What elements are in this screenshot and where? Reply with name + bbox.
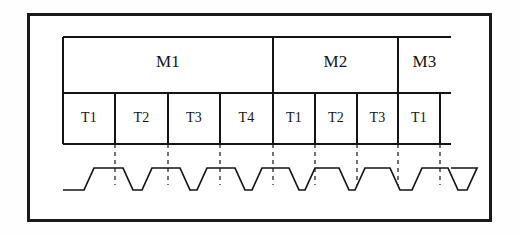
t-state-label-m2-t3: T3 [357, 111, 398, 125]
t-state-label-m3-t1: T1 [398, 111, 440, 125]
t-state-label-m1-t1: T1 [63, 111, 115, 125]
t-state-label-m1-t3: T3 [168, 111, 220, 125]
clock-waveform-trace [63, 168, 477, 190]
t-state-label-m2-t1: T1 [273, 111, 315, 125]
machine-cycle-label-m3: M3 [398, 53, 451, 70]
machine-cycle-label-m1: M1 [63, 53, 273, 70]
t-state-label-m2-t2: T2 [315, 111, 357, 125]
t-state-label-m1-t4: T4 [220, 111, 273, 125]
waveform-tick-marks [115, 144, 440, 185]
machine-cycle-label-m2: M2 [273, 53, 398, 70]
timing-diagram-figure: M1 M2 M3 T1 T2 T3 T4 T1 T2 T3 T1 [0, 0, 520, 235]
t-state-label-m1-t2: T2 [115, 111, 168, 125]
